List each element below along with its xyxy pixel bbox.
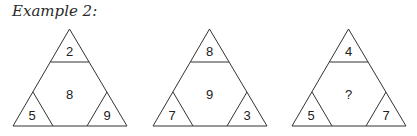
puzzle-triangle-1: 2 8 5 9	[13, 29, 127, 126]
left-divider	[33, 92, 53, 126]
left-divider	[173, 92, 193, 126]
bottom-right-value: 7	[382, 108, 389, 123]
puzzle-triangle-3: 4 ? 5 7	[292, 29, 406, 126]
center-value: 9	[206, 87, 213, 102]
left-divider	[312, 92, 332, 126]
top-value: 8	[206, 44, 213, 59]
bottom-left-value: 5	[28, 108, 35, 123]
bottom-right-value: 3	[243, 108, 250, 123]
top-value: 2	[66, 44, 73, 59]
bottom-left-value: 7	[168, 108, 175, 123]
triangle-puzzles: 2 8 5 9 8 9 7 3 4 ? 5 7	[0, 0, 417, 136]
top-value: 4	[345, 44, 352, 59]
center-value: 8	[66, 87, 73, 102]
bottom-right-value: 9	[103, 108, 110, 123]
puzzle-triangle-2: 8 9 7 3	[153, 29, 267, 126]
center-value-unknown: ?	[345, 87, 352, 102]
bottom-left-value: 5	[307, 108, 314, 123]
